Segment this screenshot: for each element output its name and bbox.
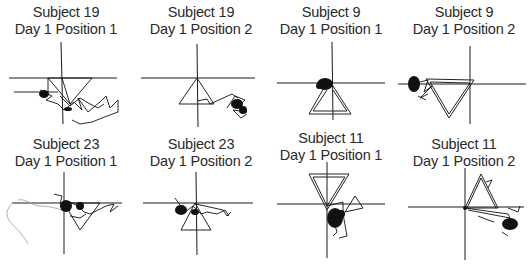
dense-trace-cluster	[60, 200, 72, 212]
panel-subject-19-position-1: Subject 19 Day 1 Position 1	[0, 0, 132, 132]
panel-subject-9-position-1: Subject 9 Day 1 Position 1	[265, 0, 397, 132]
panel-subject-9-position-2: Subject 9 Day 1 Position 2	[398, 0, 530, 132]
trajectory-plot	[135, 0, 267, 132]
panel-subject-23-position-1: Subject 23 Day 1 Position 1	[0, 132, 132, 264]
dense-trace-cluster	[316, 83, 322, 89]
panel-subject-11-position-2: Subject 11 Day 1 Position 2	[398, 132, 530, 264]
dense-trace-cluster	[337, 210, 345, 218]
trajectory-plot	[265, 132, 397, 264]
dense-trace-cluster	[191, 209, 199, 215]
panel-subject-23-position-2: Subject 23 Day 1 Position 2	[135, 132, 267, 264]
dense-trace-cluster	[502, 218, 518, 230]
trajectory-plot	[398, 132, 530, 264]
trajectory-plot	[398, 0, 530, 132]
target-triangle	[48, 78, 92, 104]
faint-trace	[7, 200, 62, 244]
target-triangle	[179, 78, 214, 104]
panel-subject-19-position-2: Subject 19 Day 1 Position 2	[135, 0, 267, 132]
vertical-axis	[197, 44, 198, 127]
dense-trace-cluster	[175, 205, 187, 215]
dense-trace-cluster	[64, 107, 72, 111]
origin-marker	[463, 206, 467, 210]
dense-trace-cluster	[39, 90, 49, 98]
dense-trace-cluster	[76, 202, 84, 210]
trajectory-plot	[0, 132, 132, 264]
vertical-axis	[332, 42, 333, 120]
target-triangle	[467, 178, 496, 208]
trajectory-plot	[0, 0, 132, 132]
dense-trace-cluster	[408, 76, 420, 92]
target-triangle	[309, 86, 351, 114]
trajectory-plot	[265, 0, 397, 132]
dense-trace-cluster	[239, 106, 247, 114]
target-triangle	[430, 82, 470, 114]
trajectory-plot	[135, 132, 267, 264]
vertical-axis	[61, 42, 63, 124]
panel-subject-11-position-1: Subject 11 Day 1 Position 1	[265, 132, 397, 264]
movement-trace	[14, 78, 118, 124]
